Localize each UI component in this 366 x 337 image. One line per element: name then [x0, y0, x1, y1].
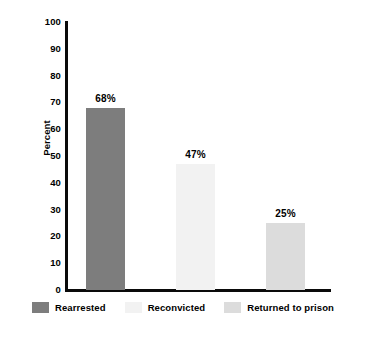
bar-value-label: 25% — [275, 208, 296, 219]
legend-swatch — [125, 302, 142, 313]
chart-legend: RearrestedReconvictedReturned to prison — [0, 299, 366, 315]
bar-value-label: 47% — [185, 149, 206, 160]
legend-swatch — [224, 302, 241, 313]
legend-label: Reconvicted — [148, 302, 206, 313]
y-axis-tick-label: 10 — [33, 258, 61, 268]
legend-swatch — [32, 302, 49, 313]
legend-item[interactable]: Rearrested — [32, 302, 106, 313]
y-axis-tick-label: 50 — [33, 151, 61, 161]
y-axis-tick-label: 30 — [33, 205, 61, 215]
y-axis-tick-label: 20 — [33, 231, 61, 241]
bar[interactable] — [176, 164, 215, 290]
bar[interactable] — [266, 223, 305, 290]
y-axis-tick-label: 80 — [33, 71, 61, 81]
y-axis-tick-label: 0 — [33, 285, 61, 295]
y-axis-tick-label: 40 — [33, 178, 61, 188]
y-axis-tick-labels: 1009080706050403020100 — [29, 0, 61, 337]
plot-area: 68%47%25% — [68, 22, 330, 290]
bar[interactable] — [86, 108, 125, 290]
y-axis-tick-label: 70 — [33, 97, 61, 107]
bar-chart: Percent 1009080706050403020100 68%47%25%… — [0, 0, 366, 337]
legend-item[interactable]: Returned to prison — [224, 302, 334, 313]
y-axis-tick-label: 100 — [33, 17, 61, 27]
y-axis-tick-label: 90 — [33, 44, 61, 54]
legend-label: Rearrested — [55, 302, 106, 313]
legend-item[interactable]: Reconvicted — [125, 302, 206, 313]
bar-value-label: 68% — [95, 93, 116, 104]
legend-label: Returned to prison — [247, 302, 334, 313]
y-axis-tick-label: 60 — [33, 124, 61, 134]
